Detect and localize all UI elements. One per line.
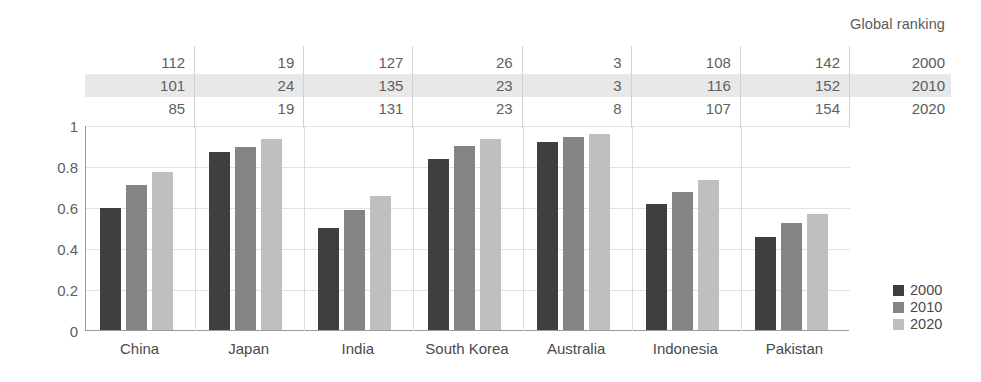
bar: [209, 152, 230, 330]
x-axis-label: India: [342, 340, 375, 357]
bar-group: [209, 125, 282, 330]
category-separator: [632, 126, 633, 331]
bar-group: [537, 125, 610, 330]
legend-item: 2000: [893, 281, 977, 298]
bar: [344, 210, 365, 330]
bar: [672, 192, 693, 330]
legend-item: 2020: [893, 315, 977, 332]
x-axis-label: Pakistan: [766, 340, 824, 357]
category-separator: [195, 126, 196, 331]
bar: [235, 147, 256, 330]
bar-chart: 00.20.40.60.81 ChinaJapanIndiaSouth Kore…: [0, 0, 981, 382]
y-axis-tick-label: 0: [36, 323, 78, 340]
bar: [781, 223, 802, 330]
legend-swatch-icon: [893, 319, 904, 330]
bar: [480, 139, 501, 330]
bar: [454, 146, 475, 331]
bar: [698, 180, 719, 330]
x-axis-label: Japan: [228, 340, 269, 357]
bar: [537, 142, 558, 330]
legend-label: 2000: [910, 282, 942, 298]
y-axis-ticks: 00.20.40.60.81: [28, 126, 78, 331]
bar: [370, 196, 391, 330]
legend-label: 2010: [910, 299, 942, 315]
legend-item: 2010: [893, 298, 977, 315]
bar: [589, 134, 610, 330]
bar: [126, 185, 147, 330]
bar: [152, 172, 173, 330]
x-axis-label: Australia: [547, 340, 605, 357]
bar: [755, 237, 776, 330]
bar: [428, 159, 449, 330]
x-axis-label: China: [120, 340, 159, 357]
bar-group: [755, 125, 828, 330]
bar: [100, 208, 121, 330]
bar: [318, 228, 339, 331]
x-axis-label: Indonesia: [653, 340, 718, 357]
legend-swatch-icon: [893, 302, 904, 313]
bar-group: [100, 125, 173, 330]
y-axis-tick-label: 1: [36, 118, 78, 135]
legend-label: 2020: [910, 316, 942, 332]
bar: [261, 139, 282, 330]
y-axis-tick-label: 0.2: [36, 282, 78, 299]
chart-legend: 200020102020: [893, 281, 977, 332]
bar-group: [646, 125, 719, 330]
bar-group: [428, 125, 501, 330]
legend-swatch-icon: [893, 285, 904, 296]
y-axis-tick-label: 0.8: [36, 159, 78, 176]
category-separator: [741, 126, 742, 331]
category-separator: [523, 126, 524, 331]
x-axis-label: South Korea: [425, 340, 508, 357]
category-separator: [413, 126, 414, 331]
category-separator: [304, 126, 305, 331]
bar: [807, 214, 828, 330]
y-axis-tick-label: 0.4: [36, 241, 78, 258]
plot-area: [85, 126, 849, 331]
chart-figure: Global ranking 1121912726310814220001012…: [0, 0, 981, 382]
bar-group: [318, 125, 391, 330]
bar: [563, 137, 584, 330]
y-axis-tick-label: 0.6: [36, 200, 78, 217]
bar: [646, 204, 667, 330]
